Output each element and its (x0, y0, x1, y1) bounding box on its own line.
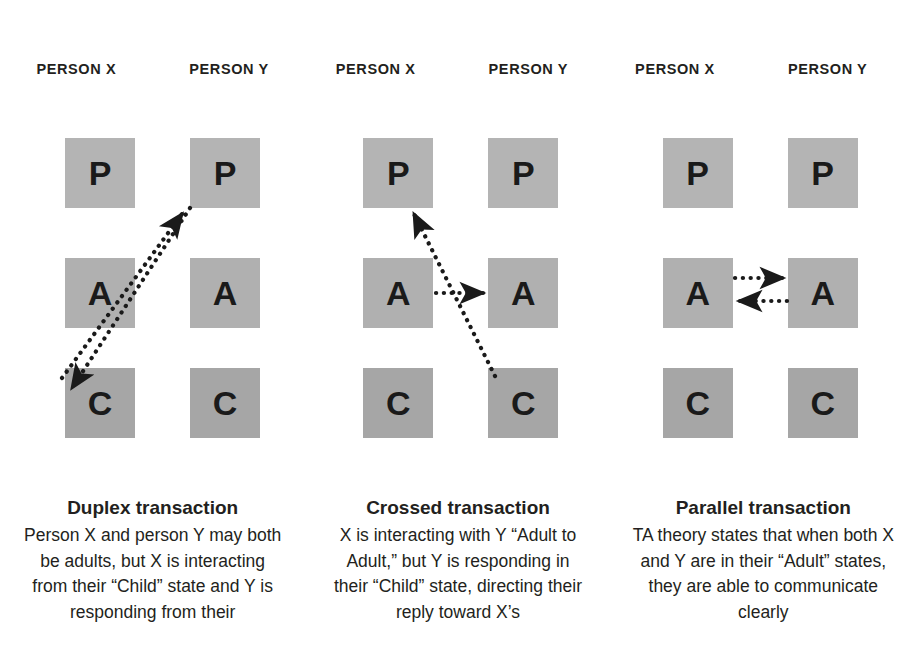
box-y-child: C (488, 368, 558, 438)
caption-title: Crossed transaction (317, 495, 598, 521)
panel-parallel-transaction: PERSON X PERSON Y P P A A C C Parallel t… (611, 0, 916, 663)
box-y-child: C (190, 368, 260, 438)
caption-title: Parallel transaction (623, 495, 904, 521)
box-x-adult: A (363, 258, 433, 328)
box-x-parent: P (663, 138, 733, 208)
caption-parallel: Parallel transaction TA theory states th… (611, 495, 916, 625)
box-y-parent: P (788, 138, 858, 208)
header-person-x: PERSON X (299, 58, 452, 80)
box-x-adult: A (65, 258, 135, 328)
header-person-x: PERSON X (0, 58, 153, 80)
box-y-child: C (788, 368, 858, 438)
box-y-parent: P (488, 138, 558, 208)
header-person-y: PERSON Y (751, 58, 904, 80)
header-person-y: PERSON Y (452, 58, 605, 80)
panel-duplex-transaction: PERSON X PERSON Y P P A A C C Duplex tra… (0, 0, 305, 663)
box-y-adult: A (488, 258, 558, 328)
panel-headers: PERSON X PERSON Y (305, 58, 610, 80)
caption-body: Person X and person Y may both be adults… (22, 523, 284, 625)
panel-headers: PERSON X PERSON Y (611, 58, 916, 80)
caption-body: X is interacting with Y “Adult to Adult,… (327, 523, 589, 625)
box-x-child: C (663, 368, 733, 438)
caption-duplex: Duplex transaction Person X and person Y… (0, 495, 305, 625)
caption-crossed: Crossed transaction X is interacting wit… (305, 495, 610, 625)
box-y-parent: P (190, 138, 260, 208)
ego-state-grid: P P A A C C (0, 138, 305, 438)
transactional-analysis-diagram: PERSON X PERSON Y P P A A C C Duplex tra… (0, 0, 916, 663)
header-person-y: PERSON Y (153, 58, 306, 80)
box-x-parent: P (363, 138, 433, 208)
box-x-child: C (65, 368, 135, 438)
box-x-parent: P (65, 138, 135, 208)
caption-body: TA theory states that when both X and Y … (632, 523, 894, 625)
ego-state-grid: P P A A C C (305, 138, 610, 438)
panel-crossed-transaction: PERSON X PERSON Y P P A A C C Crossed tr… (305, 0, 610, 663)
ego-state-grid: P P A A C C (611, 138, 916, 438)
box-y-adult: A (788, 258, 858, 328)
header-person-x: PERSON X (599, 58, 752, 80)
panel-headers: PERSON X PERSON Y (0, 58, 305, 80)
box-x-adult: A (663, 258, 733, 328)
box-y-adult: A (190, 258, 260, 328)
box-x-child: C (363, 368, 433, 438)
caption-title: Duplex transaction (12, 495, 293, 521)
